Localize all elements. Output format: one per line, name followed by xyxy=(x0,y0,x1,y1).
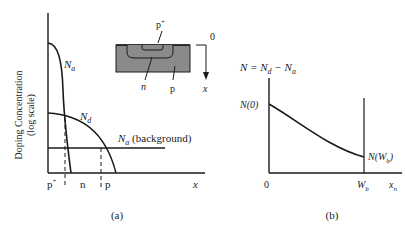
label-Na: Na xyxy=(63,58,75,73)
figure-a: Doping Concentration (log scale) Na Nd N… xyxy=(13,13,215,222)
inset-depth-origin: 0 xyxy=(210,31,215,42)
inset-label-n: n xyxy=(141,81,146,92)
label-xn: xn xyxy=(388,179,397,193)
device-cross-section-inset: p+ n p 0 x xyxy=(116,18,215,94)
figure-b: N = Nd − Na N(0) N(Wb) 0 Wb xn (b) xyxy=(239,61,402,222)
p-plus-region xyxy=(142,45,163,50)
net-doping-curve xyxy=(269,104,364,157)
label-NWb: N(Wb) xyxy=(367,151,394,165)
inset-depth-axis: x xyxy=(202,83,208,94)
inset-label-p-plus: p+ xyxy=(156,18,165,30)
region-n: n xyxy=(80,178,86,190)
region-p: p xyxy=(105,178,111,190)
inset-label-p: p xyxy=(170,83,175,94)
region-p-plus: p+ xyxy=(47,177,57,190)
svg-text:Doping Concentration: Doping Concentration xyxy=(13,70,24,159)
caption-b: (b) xyxy=(326,209,339,222)
y-axis-label: Doping Concentration (log scale) xyxy=(13,70,37,159)
label-background: Na (background) xyxy=(117,132,192,147)
caption-a: (a) xyxy=(111,209,124,222)
x-axis-label: x xyxy=(192,178,198,190)
curve-Nd xyxy=(48,113,116,173)
doping-profile-figure: Doping Concentration (log scale) Na Nd N… xyxy=(0,0,405,231)
label-N0: N(0) xyxy=(239,99,259,111)
label-Wb: Wb xyxy=(357,179,369,193)
origin-0: 0 xyxy=(264,179,269,190)
label-Nd: Nd xyxy=(79,110,92,125)
equation-N: N = Nd − Na xyxy=(239,61,296,76)
svg-text:(log scale): (log scale) xyxy=(25,94,37,136)
